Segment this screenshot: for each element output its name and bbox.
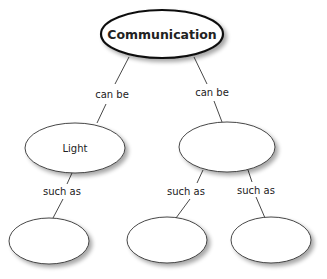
right-ellipse xyxy=(179,122,275,172)
root-node: Communication xyxy=(101,10,223,58)
link-label-right-child1: such as xyxy=(167,186,205,197)
root-label: Communication xyxy=(107,27,217,42)
connector-right-child1-upper xyxy=(197,170,203,183)
node-right-child1 xyxy=(127,217,207,263)
link-label-right-child2: such as xyxy=(237,185,275,196)
connector-right-child1-lower xyxy=(176,199,190,218)
link-label-light-child: such as xyxy=(43,186,81,197)
node-light-child xyxy=(9,218,89,264)
light-child-ellipse xyxy=(9,218,89,264)
connector-root-left-lower xyxy=(97,104,106,123)
connector-root-left-upper xyxy=(115,57,129,84)
concept-map: can be can be such as such as such as Co… xyxy=(0,0,327,279)
connector-light-child-lower xyxy=(53,199,63,218)
connector-root-right-upper xyxy=(194,57,207,84)
right-child2-ellipse xyxy=(231,217,311,263)
connector-right-child2-lower xyxy=(256,197,265,218)
link-label-root-left: can be xyxy=(95,89,129,100)
connector-right-child2-upper xyxy=(248,170,252,182)
connector-light-child-upper xyxy=(67,173,72,184)
node-light: Light xyxy=(25,123,125,173)
right-child1-ellipse xyxy=(127,217,207,263)
light-label: Light xyxy=(63,143,88,154)
link-label-root-right: can be xyxy=(195,87,229,98)
connector-root-right-lower xyxy=(214,101,222,122)
node-empty-right xyxy=(179,122,275,172)
node-right-child2 xyxy=(231,217,311,263)
